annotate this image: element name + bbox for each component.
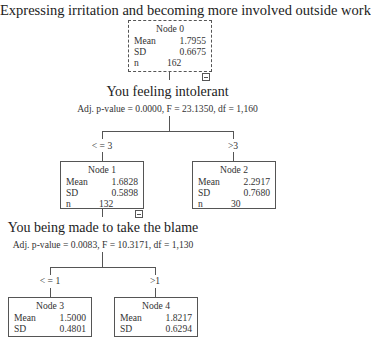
mean-value: 1.8217 [166, 312, 192, 323]
branch-label-left: < = 1 [30, 275, 70, 286]
node-title: Node 1 [61, 164, 143, 176]
sd-value: 0.5898 [112, 187, 138, 198]
branch-label-left: < = 3 [82, 140, 122, 151]
connector [50, 267, 156, 268]
connector [50, 267, 51, 275]
sd-label: SD [14, 323, 26, 334]
connector [102, 131, 103, 139]
connector [102, 209, 103, 217]
connector [233, 152, 234, 161]
node-0[interactable]: Node 0 Mean1.7955 SD0.6675 n162 [128, 20, 212, 72]
sd-value: 0.4801 [60, 323, 86, 334]
connector [102, 131, 234, 132]
connector [169, 116, 170, 131]
sd-value: 0.6675 [180, 46, 206, 57]
collapse-icon[interactable] [202, 73, 210, 81]
sd-value: 0.6294 [166, 323, 192, 334]
node-title: Node 0 [129, 23, 211, 35]
node-title: Node 2 [193, 164, 275, 176]
split-stats: Adj. p-value = 0.0083, F = 10.3171, df =… [0, 239, 206, 250]
connector [102, 252, 103, 267]
node-3[interactable]: Node 3 Mean1.5000 SD0.4801 [8, 297, 92, 337]
sd-label: SD [120, 323, 132, 334]
mean-value: 2.2917 [244, 176, 270, 187]
sd-label: SD [66, 187, 78, 198]
n-label: n [134, 57, 139, 68]
n-value: 132 [99, 198, 113, 209]
connector [155, 288, 156, 297]
split-variable: You being made to take the blame [0, 220, 206, 236]
mean-value: 1.5000 [60, 312, 86, 323]
connector [50, 288, 51, 297]
n-value: 30 [231, 198, 241, 209]
connector [102, 152, 103, 161]
n-label: n [66, 198, 71, 209]
n-value: 162 [167, 57, 181, 68]
mean-value: 1.7955 [180, 35, 206, 46]
branch-label-right: >3 [213, 140, 253, 151]
connector [233, 131, 234, 139]
mean-value: 1.6828 [112, 176, 138, 187]
collapse-icon[interactable] [135, 210, 143, 218]
mean-label: Mean [14, 312, 36, 323]
n-label: n [198, 198, 203, 209]
branch-label-right: >1 [135, 275, 175, 286]
connector [169, 72, 170, 80]
sd-value: 0.7680 [244, 187, 270, 198]
sd-label: SD [134, 46, 146, 57]
mean-label: Mean [120, 312, 142, 323]
mean-label: Mean [134, 35, 156, 46]
split-stats: Adj. p-value = 0.0000, F = 23.1350, df =… [0, 103, 335, 114]
split-variable: You feeling intolerant [0, 84, 335, 100]
sd-label: SD [198, 187, 210, 198]
diagram-title: Expressing irritation and becoming more … [0, 2, 335, 19]
node-2[interactable]: Node 2 Mean2.2917 SD0.7680 n30 [192, 161, 276, 209]
mean-label: Mean [198, 176, 220, 187]
connector [155, 267, 156, 275]
node-1[interactable]: Node 1 Mean1.6828 SD0.5898 n132 [60, 161, 144, 209]
node-title: Node 4 [115, 300, 197, 312]
node-4[interactable]: Node 4 Mean1.8217 SD0.6294 [114, 297, 198, 337]
mean-label: Mean [66, 176, 88, 187]
node-title: Node 3 [9, 300, 91, 312]
